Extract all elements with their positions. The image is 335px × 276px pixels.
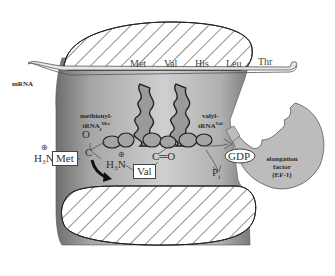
codon-val: Val: [164, 58, 177, 69]
charge-left: ⊕: [41, 143, 48, 152]
trna-val-label: valyl- tRNAVal: [198, 112, 223, 130]
codon-his: His: [195, 58, 209, 69]
ef1-label: elongation factor (EF-1): [262, 155, 302, 179]
codon-leu: Leu: [226, 58, 242, 69]
amine-left: H₃N: [34, 152, 54, 164]
mrna-label: mRNA: [12, 80, 33, 88]
ribosome-diagram: [0, 0, 335, 276]
amine-right: H₃N: [106, 158, 126, 170]
phosphate-label: Pi: [212, 166, 220, 181]
carbon-label: C: [85, 146, 92, 158]
codon-thr: Thr: [258, 56, 272, 67]
met-residue-box: Met: [52, 151, 78, 166]
val-residue-box: Val: [133, 164, 156, 179]
oxygen-label: O: [82, 128, 90, 140]
gdp-label: GDP: [228, 150, 250, 162]
codon-met: Met: [130, 58, 146, 69]
carbonyl-label: C═O: [152, 150, 175, 162]
charge-right: ⊕: [118, 150, 125, 159]
